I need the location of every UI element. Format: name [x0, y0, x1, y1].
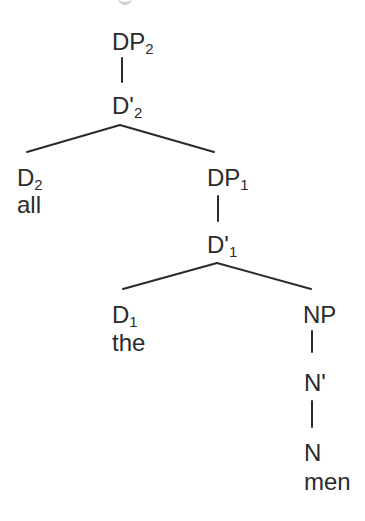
edge-dbar1-np [217, 263, 311, 289]
edge-dbar2-d2 [27, 125, 120, 152]
node-nbar: N' [304, 371, 326, 395]
node-d1: D1 [112, 303, 138, 327]
node-label: D [17, 164, 34, 191]
node-dp1: DP1 [207, 166, 249, 190]
edge-dbar1-d1 [123, 263, 217, 289]
node-subscript: 1 [240, 176, 248, 193]
node-label: DP [207, 164, 240, 191]
node-dbar1: D'1 [207, 233, 237, 257]
word-men: men [304, 470, 351, 494]
node-np: NP [303, 303, 336, 327]
node-label: DP [112, 28, 145, 55]
syntax-tree-diagram: DP2 D'2 D2 all DP1 D'1 D1 the NP N' N me… [0, 0, 365, 521]
node-subscript: 2 [134, 104, 142, 121]
node-dbar2: D'2 [112, 94, 142, 118]
node-subscript: 1 [229, 243, 237, 260]
node-subscript: 2 [145, 40, 153, 57]
node-n: N [304, 441, 321, 465]
word-the: the [112, 331, 145, 355]
node-label: D [112, 301, 129, 328]
word-all: all [17, 193, 41, 217]
node-dp2: DP2 [112, 30, 154, 54]
node-label: D' [112, 92, 134, 119]
node-d2: D2 [17, 166, 43, 190]
node-label: D' [207, 231, 229, 258]
node-subscript: 1 [129, 313, 137, 330]
edge-dbar2-dp1 [120, 125, 214, 152]
